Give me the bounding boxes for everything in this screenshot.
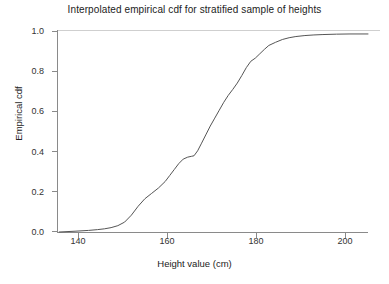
y-axis-ticks <box>52 32 57 232</box>
x-axis-ticks <box>79 233 346 238</box>
chart-figure: Interpolated empirical cdf for stratifie… <box>0 0 389 284</box>
plot-area <box>0 0 389 284</box>
cdf-line-series <box>59 34 368 232</box>
